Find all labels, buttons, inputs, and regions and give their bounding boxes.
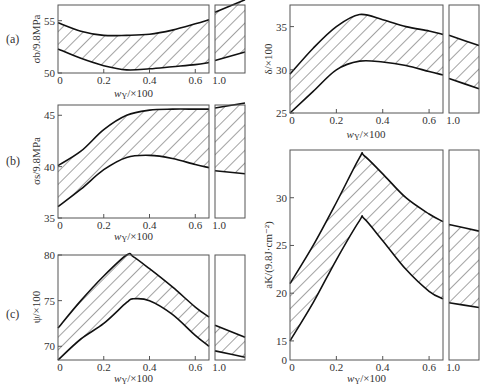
x-tick-label: 0.4 (143, 74, 157, 86)
x-tick-label: 0.2 (97, 219, 111, 231)
x-tick-break-label: 1.0 (212, 74, 226, 86)
panel-label: (c) (6, 307, 19, 321)
x-tick-label: 0.2 (329, 361, 343, 373)
panel-3-main-band-fill (58, 254, 209, 360)
panel-5-break-band-fill (449, 224, 479, 307)
x-tick-break-label: 1.0 (446, 114, 460, 126)
y-tick-label: 25 (276, 239, 288, 251)
x-tick-label: 0.2 (97, 74, 111, 86)
x-axis-label: wY/×100 (347, 372, 386, 386)
y-axis-label: ψ/×100 (30, 290, 42, 323)
x-axis-label: wY/×100 (114, 372, 153, 386)
y-tick-label: 15 (276, 335, 288, 347)
panel-label: (b) (6, 154, 20, 168)
y-tick-label: 55 (44, 15, 56, 27)
y-tick-label: 25 (276, 107, 288, 119)
x-tick-label: 0.6 (188, 219, 202, 231)
x-tick-break-label: 1.0 (212, 361, 226, 373)
y-axis-label: σb/9.8MPa (30, 14, 42, 63)
x-tick-label: 0 (289, 361, 295, 373)
y-tick-label: 20 (276, 287, 288, 299)
x-tick-label: 0 (57, 361, 63, 373)
panel-2-break-band-fill (215, 103, 245, 174)
x-tick-label: 0.6 (188, 74, 202, 86)
figure-canvas: 505500.20.40.61.0wY/×100σb/9.8MPa(a)3540… (0, 0, 490, 390)
y-axis-label: δ/×100 (262, 43, 274, 74)
y-tick-label: 0 (282, 354, 288, 366)
y-tick-label: 40 (44, 161, 56, 173)
x-tick-label: 0.6 (422, 361, 436, 373)
x-tick-label: 0.4 (376, 114, 390, 126)
x-tick-label: 0.2 (97, 361, 111, 373)
y-tick-label: 35 (276, 21, 288, 33)
x-axis-label: wY/×100 (114, 230, 153, 244)
y-tick-label: 30 (276, 192, 288, 204)
x-tick-break-label: 1.0 (212, 219, 226, 231)
y-tick-label: 45 (44, 109, 56, 121)
y-axis-label: aK/(9.8J·cm⁻²) (262, 221, 275, 289)
x-tick-label: 0.2 (329, 114, 343, 126)
panel-label: (a) (6, 32, 19, 46)
x-tick-break-label: 1.0 (446, 361, 460, 373)
y-tick-label: 35 (44, 212, 56, 224)
x-tick-label: 0.6 (422, 114, 436, 126)
y-tick-label: 75 (44, 295, 56, 307)
y-tick-label: 30 (276, 64, 288, 76)
x-axis-label: wY/×100 (347, 128, 386, 142)
panel-2-main-band-fill (58, 109, 209, 207)
x-axis-label: wY/×100 (114, 87, 153, 101)
x-tick-label: 0 (57, 219, 63, 231)
y-tick-label: 80 (44, 249, 56, 261)
y-tick-label: 50 (44, 67, 56, 79)
y-axis-label: σs/9.8MPa (30, 137, 42, 185)
x-tick-label: 0 (289, 114, 295, 126)
y-tick-label: 70 (44, 340, 56, 352)
panel-1-break-band-fill (215, 0, 245, 60)
x-tick-label: 0.6 (188, 361, 202, 373)
x-tick-label: 0 (57, 74, 63, 86)
